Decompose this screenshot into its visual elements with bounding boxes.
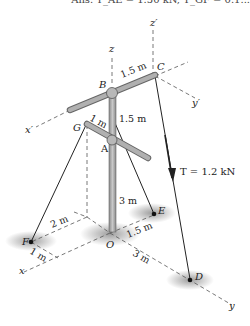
label-e: E	[157, 205, 166, 216]
label-c: C	[157, 61, 165, 72]
tension-arrow	[165, 135, 176, 182]
label-o: O	[106, 239, 114, 250]
x-prime-axis	[36, 110, 70, 127]
joint-b	[107, 88, 118, 99]
y-prime-axis	[155, 76, 195, 98]
label-z-prime: z′	[149, 17, 158, 28]
label-f: F	[21, 236, 30, 247]
point-e	[152, 212, 157, 217]
joint-a	[107, 135, 117, 145]
label-y: y	[228, 300, 235, 311]
dim-oa: 3 m	[119, 195, 137, 206]
label-g: G	[73, 122, 81, 133]
dim-fx: 2 m	[49, 213, 70, 230]
label-x-prime: x′	[25, 124, 34, 135]
dim-od: 3 m	[131, 247, 152, 266]
force-label: T = 1.2 kN	[180, 166, 236, 177]
mast-diagram: z z′ y′ x′ B C G A E F O D x y 1.5 m 1.5…	[0, 0, 250, 326]
vertical-pole	[109, 90, 116, 232]
dim-oe: 1.5 m	[125, 219, 154, 239]
dim-ab: 1.5 m	[119, 113, 146, 124]
label-x: x	[19, 265, 25, 276]
pole	[109, 90, 116, 232]
y-axis	[110, 233, 232, 305]
label-y-prime: y′	[191, 97, 201, 108]
dim-g-ground	[74, 212, 87, 217]
label-b: B	[98, 79, 106, 90]
label-d: D	[194, 271, 203, 282]
point-f	[29, 240, 34, 245]
label-a: A	[100, 143, 109, 154]
label-z: z	[108, 43, 115, 54]
point-d	[188, 278, 193, 283]
